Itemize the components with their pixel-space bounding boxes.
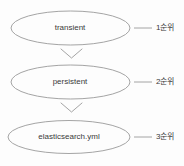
node-label-transient: transient <box>10 23 130 33</box>
node-label-elasticsearch-yml: elasticsearch.yml <box>8 132 130 142</box>
priority-diagram: transient persistent elasticsearch.yml 1… <box>0 0 184 166</box>
connector-chevron-transient-persistent <box>61 49 82 58</box>
connector-chevron-persistent-elasticsearch-yml <box>61 103 82 112</box>
priority-label-transient: 1순위 <box>156 23 174 33</box>
priority-label-persistent: 2순위 <box>156 77 174 87</box>
priority-label-elasticsearch-yml: 3순위 <box>156 132 174 142</box>
node-label-persistent: persistent <box>10 77 130 87</box>
